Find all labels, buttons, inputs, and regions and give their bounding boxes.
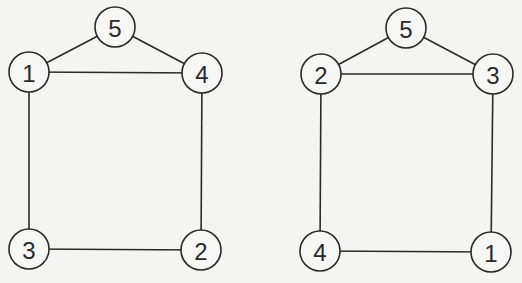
edge-2-4 bbox=[320, 74, 321, 251]
node-label: 3 bbox=[22, 237, 35, 264]
node-5: 5 bbox=[95, 7, 135, 47]
node-1: 1 bbox=[471, 232, 511, 272]
node-label: 3 bbox=[486, 62, 499, 89]
node-label: 4 bbox=[195, 61, 208, 88]
node-label: 4 bbox=[313, 239, 326, 266]
left-graph-nodes: 51432 bbox=[9, 7, 222, 270]
edge-4-2 bbox=[201, 73, 202, 250]
node-4: 4 bbox=[300, 231, 340, 271]
edge-3-1 bbox=[491, 74, 493, 252]
edge-4-1 bbox=[320, 251, 491, 252]
nodes-layer: 5143252341 bbox=[9, 7, 513, 272]
edge-1-4 bbox=[29, 72, 202, 73]
node-2: 2 bbox=[301, 54, 341, 94]
right-graph-edges bbox=[320, 28, 493, 252]
node-label: 1 bbox=[484, 240, 497, 267]
node-label: 1 bbox=[22, 60, 35, 87]
node-4: 4 bbox=[182, 53, 222, 93]
edges-layer bbox=[29, 27, 493, 252]
right-graph-nodes: 52341 bbox=[300, 8, 513, 272]
node-5: 5 bbox=[386, 8, 426, 48]
node-label: 5 bbox=[108, 15, 121, 42]
node-label: 2 bbox=[314, 62, 327, 89]
node-label: 2 bbox=[194, 238, 207, 265]
edge-3-2 bbox=[29, 249, 201, 250]
node-label: 5 bbox=[399, 16, 412, 43]
graph-diagram: 5143252341 bbox=[0, 0, 522, 283]
node-3: 3 bbox=[473, 54, 513, 94]
node-2: 2 bbox=[181, 230, 221, 270]
node-1: 1 bbox=[9, 52, 49, 92]
node-3: 3 bbox=[9, 229, 49, 269]
left-graph-edges bbox=[29, 27, 202, 250]
